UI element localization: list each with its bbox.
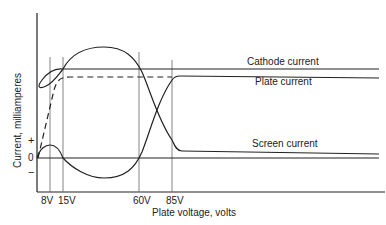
x-tick-60v: 60V <box>133 196 151 206</box>
screen-hump <box>63 47 172 140</box>
y-tick-minus: − <box>28 167 34 178</box>
screen-label: Screen current <box>252 139 318 149</box>
plate-dashed <box>38 77 172 158</box>
plate-dip <box>63 80 172 178</box>
cathode-loop <box>39 69 63 88</box>
x-tick-8v: 8V <box>41 196 53 206</box>
cathode-label: Cathode current <box>247 57 319 67</box>
y-tick-plus: + <box>28 135 34 146</box>
y-tick-zero: 0 <box>28 153 34 163</box>
x-tick-15v: 15V <box>58 196 76 206</box>
plate-label: Plate current <box>255 77 312 87</box>
x-tick-85v: 85V <box>166 196 184 206</box>
y-axis-label: Current, milliamperes <box>13 73 23 168</box>
x-axis-label: Plate voltage, volts <box>152 208 236 218</box>
chart-plot <box>0 0 386 225</box>
